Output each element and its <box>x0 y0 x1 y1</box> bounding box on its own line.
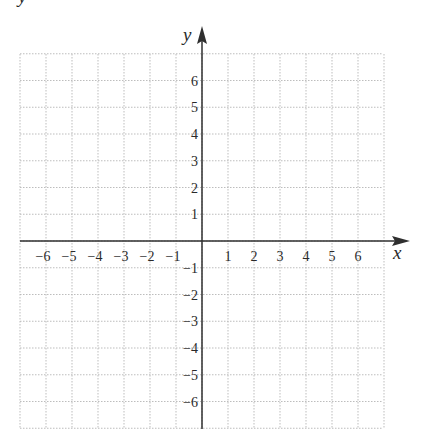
x-tick-label: −1 <box>166 249 181 264</box>
x-tick-label: 2 <box>251 249 258 264</box>
x-tick-label: 1 <box>225 249 232 264</box>
y-tick-label: 1 <box>191 207 198 222</box>
corner-fragment-label: y <box>16 0 27 7</box>
y-tick-label: 2 <box>191 181 198 196</box>
x-axis-label: x <box>392 242 402 263</box>
coordinate-plane: y x y −6−5−4−3−2−1123456 654321−1−2−3−4−… <box>0 0 425 436</box>
x-tick-label: −2 <box>140 249 155 264</box>
x-tick-label: −4 <box>88 249 103 264</box>
x-tick-label: 6 <box>355 249 362 264</box>
y-tick-label: 6 <box>191 74 198 89</box>
y-axis-label: y <box>181 24 192 45</box>
y-tick-label: 3 <box>191 154 198 169</box>
x-tick-label: −6 <box>36 249 51 264</box>
y-tick-label: −3 <box>183 314 198 329</box>
x-tick-label: −3 <box>114 249 129 264</box>
y-tick-label: −5 <box>183 368 198 383</box>
y-tick-label: −4 <box>183 341 198 356</box>
y-tick-label: 4 <box>191 127 198 142</box>
x-tick-labels: −6−5−4−3−2−1123456 <box>36 249 362 264</box>
x-tick-label: 5 <box>329 249 336 264</box>
y-tick-label: 5 <box>191 100 198 115</box>
x-tick-label: 3 <box>277 249 284 264</box>
y-tick-label: −2 <box>183 288 198 303</box>
y-tick-label: −1 <box>183 261 198 276</box>
x-tick-label: 4 <box>303 249 310 264</box>
x-tick-label: −5 <box>62 249 77 264</box>
y-tick-label: −6 <box>183 395 198 410</box>
